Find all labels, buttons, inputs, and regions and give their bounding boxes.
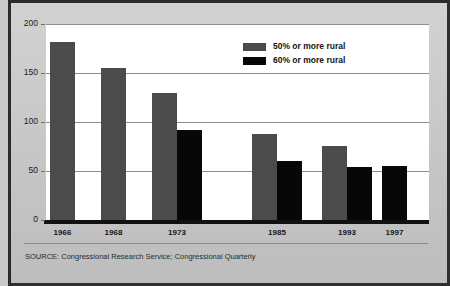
legend-item: 50% or more rural [243,42,345,51]
x-tick-label-1997: 1997 [382,228,407,237]
bar-1997-rural-60 [382,166,407,220]
y-tick-label-100: 100 [8,117,38,126]
bar-1973-rural-60 [177,130,202,220]
y-tick-label-150: 150 [8,68,38,77]
y-tick-200 [41,24,45,25]
y-tick-label-50: 50 [8,166,38,175]
legend-label-rural-50: 50% or more rural [273,42,345,51]
chart-figure: 050100150200 196619681973198519931997 50… [0,0,450,286]
legend-swatch-rural-50 [243,43,266,51]
bar-1985-rural-60 [277,161,302,220]
bar-1973-rural-50 [152,93,177,220]
y-tick-50 [41,171,45,172]
bar-1966-rural-50 [50,42,75,220]
x-tick-label-1973: 1973 [152,228,202,237]
legend-label-rural-60: 60% or more rural [273,56,345,65]
bar-1993-rural-60 [347,167,372,220]
y-tick-100 [41,122,45,123]
x-tick-label-1985: 1985 [252,228,302,237]
y-tick-label-200: 200 [8,19,38,28]
y-tick-150 [41,73,45,74]
source-divider [24,243,428,244]
bar-1968-rural-50 [101,68,126,220]
chart-legend: 50% or more rural 60% or more rural [243,42,345,70]
x-axis-baseline [44,220,429,224]
bar-1993-rural-50 [322,146,347,220]
bar-1985-rural-50 [252,134,277,220]
x-tick-label-1968: 1968 [101,228,126,237]
legend-swatch-rural-60 [243,57,266,65]
source-note: SOURCE: Congressional Research Service; … [25,252,256,261]
x-tick-label-1966: 1966 [50,228,75,237]
legend-item: 60% or more rural [243,56,345,65]
y-tick-label-0: 0 [8,215,38,224]
x-tick-label-1993: 1993 [322,228,372,237]
gridline-200 [46,24,429,25]
y-tick-0 [41,220,45,221]
